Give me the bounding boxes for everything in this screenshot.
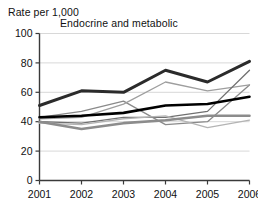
gridlines (40, 34, 250, 152)
series-line-series-4-thin-grey-rising (40, 85, 250, 125)
y-tick-label: 100 (15, 27, 33, 39)
data-series-group (40, 61, 250, 129)
x-tick-label: 2002 (70, 188, 94, 200)
y-tick-label: 80 (21, 57, 33, 69)
y-tick-label: 60 (21, 86, 33, 98)
x-tick-label: 2001 (28, 188, 52, 200)
y-tick-label: 0 (27, 174, 33, 186)
series-line-series-2-black (40, 97, 250, 118)
y-tick-label: 20 (21, 145, 33, 157)
x-tick-label: 2003 (112, 188, 136, 200)
series-line-series-1-thick-dark (40, 61, 250, 105)
x-tick-label: 2004 (154, 188, 178, 200)
line-chart-plot: 020406080100 200120022003200420052006 (0, 0, 258, 212)
y-axis-tick-labels: 020406080100 (15, 27, 33, 186)
x-tick-label: 2005 (196, 188, 220, 200)
y-tick-label: 40 (21, 115, 33, 127)
x-tick-label: 2006 (238, 188, 258, 200)
x-axis-tick-labels: 200120022003200420052006 (28, 188, 258, 200)
chart-container: Rate per 1,000 Endocrine and metabolic 0… (0, 0, 258, 212)
